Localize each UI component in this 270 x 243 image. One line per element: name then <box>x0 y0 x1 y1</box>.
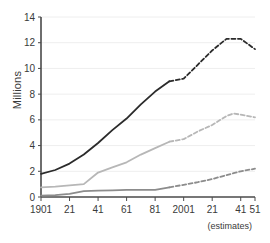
gridlines <box>41 17 255 171</box>
svg-text:2001: 2001 <box>173 204 196 215</box>
svg-text:61: 61 <box>121 204 133 215</box>
chart-container: Millions 02468101214 1901214161812001214… <box>0 0 270 243</box>
svg-text:14: 14 <box>24 12 36 23</box>
svg-text:21: 21 <box>64 204 76 215</box>
svg-text:1901: 1901 <box>30 204 53 215</box>
svg-text:81: 81 <box>150 204 162 215</box>
svg-text:41: 41 <box>235 204 247 215</box>
svg-text:2: 2 <box>29 166 35 177</box>
svg-text:41: 41 <box>93 204 105 215</box>
data-series-layer <box>41 39 255 196</box>
line-chart-plot: 02468101214 1901214161812001214151 (esti… <box>0 0 270 243</box>
svg-text:6: 6 <box>29 114 35 125</box>
svg-text:21: 21 <box>207 204 219 215</box>
svg-text:51: 51 <box>249 204 261 215</box>
svg-text:12: 12 <box>24 37 36 48</box>
y-axis-ticks: 02468101214 <box>24 12 41 203</box>
x-axis-ticks: 1901214161812001214151 <box>30 197 261 215</box>
svg-text:4: 4 <box>29 140 35 151</box>
svg-text:8: 8 <box>29 89 35 100</box>
axis-lines <box>41 17 255 197</box>
estimates-note: (estimates) <box>207 221 252 231</box>
svg-text:10: 10 <box>24 63 36 74</box>
svg-text:0: 0 <box>29 192 35 203</box>
